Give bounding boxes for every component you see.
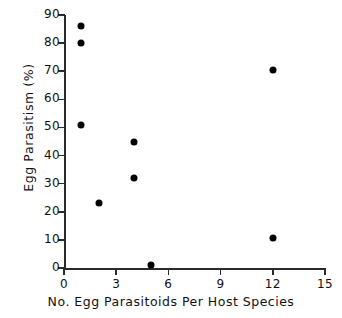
data-point bbox=[130, 138, 137, 145]
data-point bbox=[78, 121, 85, 128]
y-axis-line bbox=[64, 15, 66, 268]
scatter-chart-figure: Egg Parasitism (%) No. Egg Parasitoids P… bbox=[0, 0, 342, 318]
x-tick-label: 6 bbox=[164, 277, 172, 291]
y-tick-label: 30 bbox=[44, 176, 60, 190]
y-tick-label: 80 bbox=[44, 35, 60, 49]
x-tick-mark-3 bbox=[115, 268, 117, 275]
y-tick-label: 10 bbox=[44, 232, 60, 246]
x-tick-mark-12 bbox=[272, 268, 274, 275]
x-tick-label: 15 bbox=[317, 277, 333, 291]
data-point bbox=[78, 23, 85, 30]
y-tick-label: 90 bbox=[44, 7, 60, 21]
x-tick-mark-9 bbox=[220, 268, 222, 275]
data-point bbox=[95, 200, 102, 207]
data-point bbox=[269, 66, 276, 73]
data-point bbox=[148, 262, 155, 269]
data-point bbox=[130, 175, 137, 182]
data-point bbox=[269, 235, 276, 242]
y-tick-label: 0 bbox=[52, 260, 60, 274]
x-axis-label: No. Egg Parasitoids Per Host Species bbox=[0, 294, 342, 309]
y-tick-label: 40 bbox=[44, 148, 60, 162]
x-tick-mark-0 bbox=[63, 268, 65, 275]
y-tick-label: 50 bbox=[44, 119, 60, 133]
plot-area: 0102030405060708090 03691215 bbox=[64, 15, 325, 268]
data-point bbox=[78, 40, 85, 47]
y-tick-label: 70 bbox=[44, 63, 60, 77]
y-tick-label: 60 bbox=[44, 91, 60, 105]
x-tick-label: 12 bbox=[265, 277, 281, 291]
x-tick-label: 3 bbox=[112, 277, 120, 291]
x-axis-line bbox=[64, 268, 325, 270]
y-tick-label: 20 bbox=[44, 204, 60, 218]
x-tick-label: 9 bbox=[217, 277, 225, 291]
x-tick-mark-15 bbox=[324, 268, 326, 275]
y-axis-label: Egg Parasitism (%) bbox=[21, 8, 36, 248]
x-tick-label: 0 bbox=[60, 277, 68, 291]
x-tick-mark-6 bbox=[168, 268, 170, 275]
